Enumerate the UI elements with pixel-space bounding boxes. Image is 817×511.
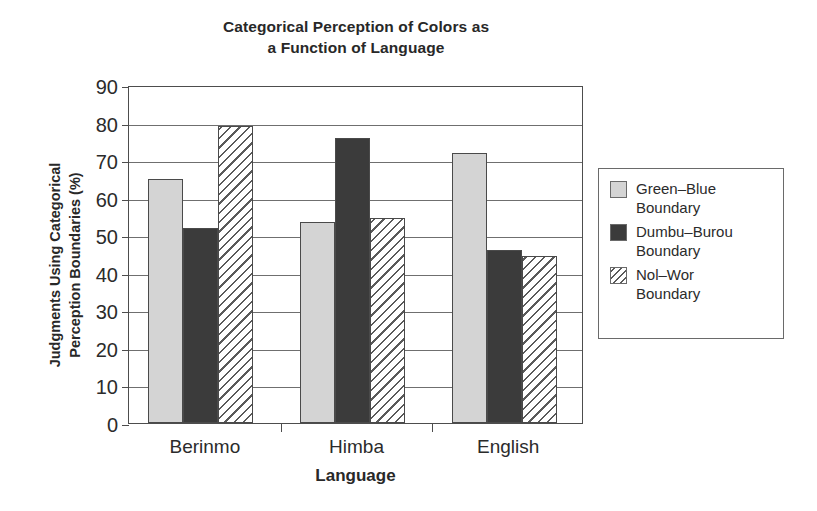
bar-english-series-1 <box>487 250 522 423</box>
y-tick-mark-50 <box>122 237 129 238</box>
y-axis-title-line-2: Perception Boundaries (%) <box>65 85 85 445</box>
y-tick-mark-80 <box>122 125 129 126</box>
chart-legend: Green–BlueBoundaryDumbu–BurouBoundaryNol… <box>598 168 784 339</box>
y-tick-label-90: 90 <box>96 77 118 97</box>
x-tick-mark-2 <box>432 423 433 432</box>
legend-label-0-line-1: Boundary <box>636 198 716 217</box>
y-tick-mark-40 <box>122 275 129 276</box>
y-tick-mark-20 <box>122 350 129 351</box>
legend-label-2: Nol–WorBoundary <box>636 265 700 303</box>
bar-english-series-2 <box>522 256 557 423</box>
y-tick-label-70: 70 <box>96 152 118 172</box>
y-tick-mark-30 <box>122 312 129 313</box>
bar-berinmo-series-1 <box>183 228 218 423</box>
x-tick-label-himba: Himba <box>329 436 384 458</box>
chart-figure: Categorical Perception of Colors as a Fu… <box>0 0 817 511</box>
y-axis-title-line-1: Judgments Using Categorical <box>45 85 65 445</box>
bar-berinmo-series-2 <box>218 126 253 423</box>
y-tick-mark-10 <box>122 387 129 388</box>
bar-himba-series-2 <box>370 218 405 423</box>
bar-english-series-0 <box>452 153 487 423</box>
y-tick-label-80: 80 <box>96 115 118 135</box>
x-axis-title: Language <box>128 466 583 486</box>
chart-title-line-1: Categorical Perception of Colors as <box>128 16 584 37</box>
legend-item-1[interactable]: Dumbu–BurouBoundary <box>610 222 783 260</box>
y-tick-mark-70 <box>122 162 129 163</box>
legend-label-1: Dumbu–BurouBoundary <box>636 222 733 260</box>
bar-berinmo-series-0 <box>148 179 183 423</box>
legend-label-0: Green–BlueBoundary <box>636 179 716 217</box>
y-tick-label-10: 10 <box>96 377 118 397</box>
legend-label-1-line-0: Dumbu–Burou <box>636 222 733 241</box>
legend-label-2-line-0: Nol–Wor <box>636 265 700 284</box>
legend-item-2[interactable]: Nol–WorBoundary <box>610 265 783 303</box>
legend-label-2-line-1: Boundary <box>636 284 700 303</box>
bar-himba-series-0 <box>300 222 335 423</box>
chart-title-line-2: a Function of Language <box>128 37 584 58</box>
legend-item-0[interactable]: Green–BlueBoundary <box>610 179 783 217</box>
bar-himba-series-1 <box>335 138 370 423</box>
y-tick-label-50: 50 <box>96 227 118 247</box>
y-tick-label-60: 60 <box>96 190 118 210</box>
legend-swatch-icon-2 <box>610 267 627 284</box>
x-tick-label-berinmo: Berinmo <box>169 436 240 458</box>
y-axis-title: Judgments Using Categorical Perception B… <box>45 85 89 445</box>
legend-swatch-icon-0 <box>610 181 627 198</box>
chart-title: Categorical Perception of Colors as a Fu… <box>128 16 584 58</box>
y-tick-mark-0 <box>122 425 129 426</box>
x-tick-mark-1 <box>281 423 282 432</box>
gridline-80 <box>129 125 582 126</box>
plot-area: 0102030405060708090BerinmoHimbaEnglish <box>128 86 583 424</box>
y-tick-label-30: 30 <box>96 302 118 322</box>
y-tick-label-20: 20 <box>96 340 118 360</box>
legend-label-0-line-0: Green–Blue <box>636 179 716 198</box>
y-tick-mark-60 <box>122 200 129 201</box>
y-tick-label-40: 40 <box>96 265 118 285</box>
legend-label-1-line-1: Boundary <box>636 241 733 260</box>
y-tick-label-0: 0 <box>107 415 118 435</box>
legend-swatch-icon-1 <box>610 224 627 241</box>
y-tick-mark-90 <box>122 87 129 88</box>
x-tick-label-english: English <box>477 436 539 458</box>
